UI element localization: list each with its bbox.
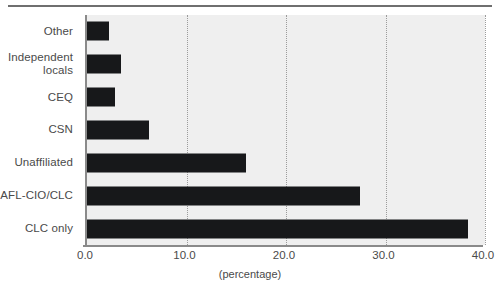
category-label: CLC only <box>0 212 79 245</box>
x-axis-line <box>83 245 483 247</box>
x-tick-label: 30.0 <box>372 249 394 261</box>
x-tick-label: 0.0 <box>77 249 93 261</box>
bar <box>87 219 468 238</box>
bar-row <box>87 114 485 147</box>
category-label: Other <box>0 15 79 48</box>
x-axis-title: (percentage) <box>0 268 500 280</box>
category-label: CEQ <box>0 81 79 114</box>
category-axis-labels: OtherIndependent localsCEQCSNUnaffiliate… <box>0 15 79 245</box>
x-axis-tick-labels: 0.010.020.030.040.0 <box>0 249 500 267</box>
bar-row <box>87 81 485 114</box>
bar-series <box>87 15 485 245</box>
category-label: CSN <box>0 114 79 147</box>
bar <box>87 186 360 205</box>
bar <box>87 22 109 41</box>
plot-area <box>85 15 485 245</box>
bar-chart-figure: OtherIndependent localsCEQCSNUnaffiliate… <box>0 0 500 286</box>
category-label-text: Independent locals <box>0 51 79 77</box>
bar <box>87 55 121 74</box>
x-tick-label: 40.0 <box>472 249 494 261</box>
category-label: Independent locals <box>0 48 79 81</box>
category-label-text: CEQ <box>48 91 79 104</box>
bar <box>87 120 149 139</box>
top-rule-divider <box>8 5 492 7</box>
bar-row <box>87 212 485 245</box>
gridline <box>485 15 486 245</box>
bar <box>87 153 246 172</box>
category-label-text: CLC only <box>25 222 79 235</box>
category-label-text: Unaffiliated <box>14 156 79 169</box>
category-label: Unaffiliated <box>0 146 79 179</box>
x-tick-label: 20.0 <box>273 249 295 261</box>
category-label-text: AFL-CIO/CLC <box>0 189 79 202</box>
bar-row <box>87 48 485 81</box>
x-tick-label: 10.0 <box>173 249 195 261</box>
bar-row <box>87 146 485 179</box>
category-label-text: Other <box>44 25 79 38</box>
bar-row <box>87 15 485 48</box>
category-label: AFL-CIO/CLC <box>0 179 79 212</box>
bar <box>87 88 115 107</box>
category-label-text: CSN <box>48 123 79 136</box>
bar-row <box>87 179 485 212</box>
